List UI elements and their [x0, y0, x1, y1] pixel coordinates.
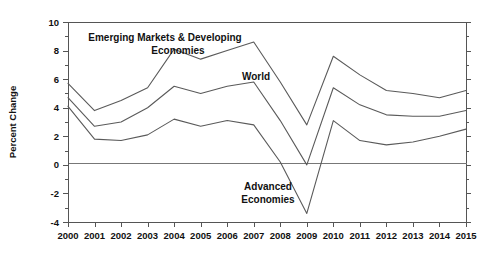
y-tick-label-10: 10 [48, 17, 59, 28]
y-tick-label-6: 6 [54, 74, 59, 85]
x-tick-label-2013: 2013 [402, 230, 423, 241]
x-tick-label-2012: 2012 [376, 230, 397, 241]
x-axis-tick-labels: 2000200120022003200420052006200720082009… [57, 230, 477, 241]
line-chart: 1086420-2-4 2000200120022003200420052006… [0, 0, 502, 255]
x-tick-label-2007: 2007 [243, 230, 264, 241]
x-tick-label-2005: 2005 [190, 230, 212, 241]
y-axis-title: Percent Change [7, 86, 18, 158]
series-line-0 [68, 42, 466, 125]
y-tick-label-4: 4 [54, 102, 60, 113]
annotation-advanced-line2: Economies [241, 194, 295, 205]
x-tick-label-2014: 2014 [429, 230, 451, 241]
x-tick-label-2010: 2010 [323, 230, 344, 241]
y-tick-label-0: 0 [54, 159, 59, 170]
x-tick-label-2008: 2008 [270, 230, 291, 241]
y-axis-tick-labels: 1086420-2-4 [48, 17, 59, 228]
series-line-1 [68, 82, 466, 165]
y-tick-label--2: -2 [51, 188, 59, 199]
y-tick-label--4: -4 [51, 217, 60, 228]
annotation-emde-line1: Emerging Markets & Developing [88, 32, 241, 43]
x-tick-label-2015: 2015 [455, 230, 477, 241]
x-tick-label-2011: 2011 [350, 230, 371, 241]
x-tick-label-2001: 2001 [84, 230, 106, 241]
chart-axes [69, 22, 467, 223]
x-tick-label-2006: 2006 [217, 230, 238, 241]
y-tick-label-8: 8 [54, 45, 59, 56]
y-axis-ticks-left [63, 23, 68, 223]
x-tick-label-2004: 2004 [164, 230, 186, 241]
x-tick-label-2003: 2003 [137, 230, 158, 241]
x-tick-label-2002: 2002 [110, 230, 131, 241]
x-tick-label-2009: 2009 [296, 230, 317, 241]
annotation-advanced-line1: Advanced [244, 181, 292, 192]
y-tick-label-2: 2 [54, 131, 59, 142]
x-tick-label-2000: 2000 [57, 230, 78, 241]
chart-container: 1086420-2-4 2000200120022003200420052006… [0, 0, 502, 255]
annotation-emde-line2: Economies [151, 45, 205, 56]
annotation-world: World [242, 71, 270, 82]
